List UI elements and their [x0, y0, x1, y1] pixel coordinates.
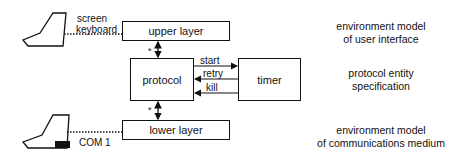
- upper-multiplicity: *: [148, 46, 152, 56]
- protocol-box: protocol: [130, 58, 194, 101]
- terminal-icon-lower: [23, 115, 70, 148]
- lower-multiplicity: *: [148, 105, 152, 115]
- screen-label: screen: [77, 13, 107, 24]
- retry-label: retry: [203, 68, 223, 79]
- timer-box: timer: [238, 58, 301, 101]
- terminal-icon-upper: [23, 13, 66, 46]
- upper-layer-box: upper layer: [122, 21, 230, 41]
- lower-layer-box: lower layer: [122, 120, 230, 140]
- desc-user-interface: environment model of user interface: [296, 20, 451, 46]
- start-label: start: [200, 55, 219, 66]
- com-port-icon: [55, 141, 70, 148]
- keyboard-label: keyboard: [76, 24, 117, 35]
- com-label: COM 1: [79, 137, 111, 148]
- desc-protocol-entity: protocol entity specification: [296, 67, 451, 93]
- kill-label: kill: [206, 82, 218, 93]
- desc-communications-medium: environment model of communications medi…: [296, 124, 451, 150]
